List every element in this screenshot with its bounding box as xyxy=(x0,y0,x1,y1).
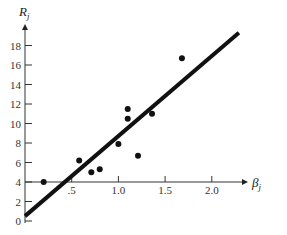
data-point xyxy=(125,106,131,112)
y-tick-label: 8 xyxy=(16,137,22,149)
data-point xyxy=(88,169,94,175)
y-axis-arrow-icon xyxy=(22,24,28,30)
data-point xyxy=(179,55,185,61)
data-point xyxy=(125,116,131,122)
x-tick-label: 1.5 xyxy=(158,184,172,196)
x-axis-arrow-icon xyxy=(242,179,248,185)
chart: 024681012141618 .51.01.52.0 Rj βj xyxy=(0,0,287,235)
y-tick-label: 18 xyxy=(10,40,22,52)
y-ticks: 024681012141618 xyxy=(10,40,32,228)
y-tick-label: 4 xyxy=(16,176,22,188)
y-tick-label: 2 xyxy=(16,196,22,208)
data-point xyxy=(135,153,141,159)
x-tick-label: 2.0 xyxy=(205,184,219,196)
data-point xyxy=(115,141,121,147)
x-ticks: .51.01.52.0 xyxy=(68,176,220,196)
data-points xyxy=(41,55,185,185)
y-tick-label: 0 xyxy=(16,215,22,227)
axes: 024681012141618 .51.01.52.0 Rj βj xyxy=(10,4,261,227)
y-tick-label: 14 xyxy=(10,79,22,91)
y-axis-label: Rj xyxy=(18,4,30,21)
data-point xyxy=(76,158,82,164)
x-tick-label: 1.0 xyxy=(112,184,126,196)
data-point xyxy=(97,166,103,172)
data-point xyxy=(41,179,47,185)
y-tick-label: 16 xyxy=(10,59,22,71)
y-tick-label: 12 xyxy=(10,98,21,110)
x-axis-label: βj xyxy=(251,175,261,192)
data-point xyxy=(149,111,155,117)
y-tick-label: 10 xyxy=(10,118,22,130)
x-tick-label: .5 xyxy=(68,184,77,196)
y-tick-label: 6 xyxy=(16,157,22,169)
